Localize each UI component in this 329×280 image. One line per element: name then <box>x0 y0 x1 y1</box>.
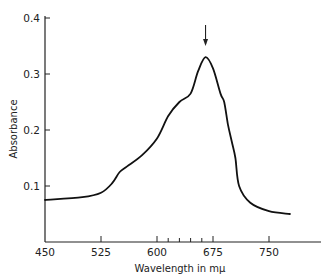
tick-labels: 4505256006757500.10.20.30.4 <box>23 12 279 258</box>
x-axis-title: Wavelength in mμ <box>135 263 227 274</box>
peak-arrow-icon <box>203 25 208 46</box>
x-tick-label: 525 <box>91 246 111 258</box>
absorbance-chart: 4505256006757500.10.20.30.4 Wavelength i… <box>0 0 329 280</box>
x-tick-label: 750 <box>259 246 279 258</box>
x-tick-label: 675 <box>203 246 223 258</box>
x-tick-label: 450 <box>35 246 55 258</box>
y-tick-label: 0.2 <box>23 124 40 136</box>
y-axis-title: Absorbance <box>8 99 19 158</box>
y-tick-label: 0.3 <box>23 68 40 80</box>
absorbance-curve <box>45 57 290 214</box>
y-tick-label: 0.4 <box>23 12 40 24</box>
y-tick-label: 0.1 <box>23 180 40 192</box>
tick-marks <box>45 18 269 242</box>
axes <box>45 16 321 242</box>
x-tick-label: 600 <box>147 246 167 258</box>
